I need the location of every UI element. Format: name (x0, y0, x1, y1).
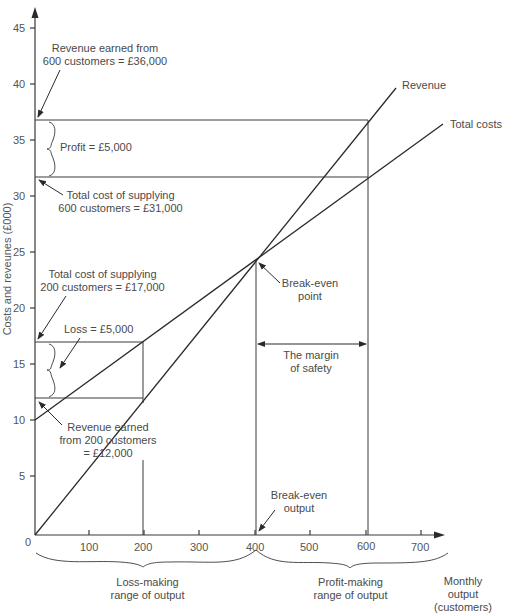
y-tick-5: 5 (19, 470, 25, 482)
revenue-series-label: Revenue (402, 79, 446, 92)
y-tick-40: 40 (13, 78, 25, 90)
profit-range-line2: range of output (303, 589, 398, 602)
profit-label: Profit = £5,000 (60, 141, 132, 154)
tc200-arrow (38, 296, 66, 339)
tc600-label-line2: 600 customers = £31,000 (58, 202, 183, 215)
bep-label-line2: point (275, 290, 345, 303)
rev200-label-line2: from 200 customers (58, 434, 158, 447)
rev200-label-line1: Revenue earned (58, 421, 158, 434)
y-tick-15: 15 (13, 358, 25, 370)
x-axis-label-line2: output (423, 588, 503, 601)
x-tick-300: 300 (190, 541, 208, 553)
break-even-point-label: Break-even point (275, 277, 345, 303)
profit-range-label: Profit-making range of output (303, 576, 398, 602)
rev200-label-line3: = £12,000 (58, 447, 158, 460)
x-axis-label-line1: Monthly (423, 575, 503, 588)
x-tick-400: 400 (246, 541, 264, 553)
tc600-label-line1: Total cost of supplying (58, 189, 183, 202)
loss-range-label: Loss-making range of output (100, 576, 195, 602)
beo-label-line1: Break-even (264, 489, 334, 502)
y-tick-0: 0 (25, 536, 31, 548)
y-axis-label: Costs and reveunes (£000) (1, 198, 13, 340)
rev200-label: Revenue earned from 200 customers = £12,… (58, 421, 158, 460)
loss-label: Loss = £5,000 (64, 323, 133, 336)
total-costs-series-label: Total costs (450, 118, 502, 131)
rev600-label-line1: Revenue earned from (40, 42, 170, 55)
x-tick-100: 100 (80, 541, 98, 553)
break-even-output-label: Break-even output (264, 489, 334, 515)
y-tick-25: 25 (13, 246, 25, 258)
x-tick-600: 600 (357, 540, 375, 552)
x-tick-700: 700 (411, 541, 429, 553)
y-axis-arrow-icon (32, 7, 39, 18)
x-axis-arrow-icon (434, 532, 445, 539)
mos-label-line1: The margin (276, 349, 346, 362)
y-tick-20: 20 (13, 302, 25, 314)
x-axis-label: Monthly output (customers) (423, 575, 503, 614)
beo-label-line2: output (264, 502, 334, 515)
tc200-label-line2: 200 customers = £17,000 (40, 281, 165, 294)
x-tick-200: 200 (134, 541, 152, 553)
loss-range-line1: Loss-making (100, 576, 195, 589)
rev600-label-line2: 600 customers = £36,000 (40, 55, 170, 68)
rev600-arrow (38, 70, 60, 117)
mos-label-line2: of safety (276, 362, 346, 375)
x-axis (35, 530, 445, 539)
tc200-label: Total cost of supplying 200 customers = … (40, 268, 165, 294)
rev600-label: Revenue earned from 600 customers = £36,… (40, 42, 170, 68)
revenue-line (35, 88, 396, 535)
y-axis (30, 7, 39, 535)
profit-brace (47, 122, 55, 176)
y-tick-35: 35 (13, 134, 25, 146)
loss-brace (47, 344, 55, 397)
profit-range-line1: Profit-making (303, 576, 398, 589)
margin-of-safety-label: The margin of safety (276, 349, 346, 375)
x-tick-500: 500 (300, 541, 318, 553)
tc200-label-line1: Total cost of supplying (40, 268, 165, 281)
x-axis-label-line3: (customers) (423, 601, 503, 614)
y-tick-10: 10 (13, 414, 25, 426)
loss-range-line2: range of output (100, 589, 195, 602)
y-tick-30: 30 (13, 190, 25, 202)
tc600-label: Total cost of supplying 600 customers = … (58, 189, 183, 215)
bep-label-line1: Break-even (275, 277, 345, 290)
y-tick-45: 45 (13, 22, 25, 34)
